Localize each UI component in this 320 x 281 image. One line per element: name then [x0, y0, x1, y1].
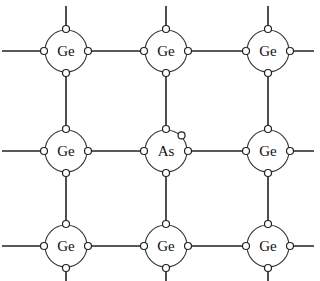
atom-label: Ge — [57, 143, 75, 159]
extra-free-electron — [178, 132, 185, 139]
atom-label: Ge — [157, 43, 175, 59]
valence-electron — [63, 221, 70, 228]
atom-ge: Ge — [45, 30, 87, 72]
valence-electron — [163, 70, 170, 77]
atom-label: Ge — [259, 238, 277, 254]
valence-electron — [185, 243, 192, 250]
atom-ge: Ge — [247, 130, 289, 172]
atom-ge: Ge — [45, 130, 87, 172]
atom-ge: Ge — [145, 30, 187, 72]
valence-electron — [243, 48, 250, 55]
atom-ge: Ge — [247, 30, 289, 72]
valence-electron — [85, 243, 92, 250]
valence-electron — [185, 48, 192, 55]
valence-electron — [63, 70, 70, 77]
valence-electron — [163, 265, 170, 272]
valence-electron — [41, 48, 48, 55]
valence-electron — [287, 148, 294, 155]
valence-electron — [41, 148, 48, 155]
valence-electron — [265, 265, 272, 272]
valence-electron — [41, 243, 48, 250]
atom-ge: Ge — [247, 225, 289, 267]
valence-electron — [265, 70, 272, 77]
valence-electron — [287, 48, 294, 55]
atoms-layer: GeGeGeGeAsGeGeGeGe — [45, 30, 289, 267]
atom-label: Ge — [57, 238, 75, 254]
atom-label: Ge — [259, 43, 277, 59]
valence-electron — [163, 170, 170, 177]
valence-electron — [63, 126, 70, 133]
valence-electron — [63, 265, 70, 272]
atom-label: Ge — [57, 43, 75, 59]
atom-ge: Ge — [145, 225, 187, 267]
valence-electron — [141, 243, 148, 250]
valence-electron — [265, 221, 272, 228]
valence-electron — [287, 243, 294, 250]
atom-label: Ge — [157, 238, 175, 254]
valence-electron — [141, 148, 148, 155]
valence-electron — [63, 170, 70, 177]
valence-electron — [63, 26, 70, 33]
valence-electron — [185, 148, 192, 155]
valence-electron — [141, 48, 148, 55]
valence-electron — [163, 221, 170, 228]
atom-label: As — [158, 143, 175, 159]
valence-electron — [243, 148, 250, 155]
valence-electron — [85, 48, 92, 55]
valence-electron — [85, 148, 92, 155]
valence-electron — [243, 243, 250, 250]
valence-electron — [265, 126, 272, 133]
valence-electron — [163, 126, 170, 133]
valence-electron — [265, 26, 272, 33]
valence-electron — [265, 170, 272, 177]
ge-as-lattice-diagram: GeGeGeGeAsGeGeGeGe — [0, 0, 320, 281]
valence-electron — [163, 26, 170, 33]
atom-label: Ge — [259, 143, 277, 159]
atom-ge: Ge — [45, 225, 87, 267]
